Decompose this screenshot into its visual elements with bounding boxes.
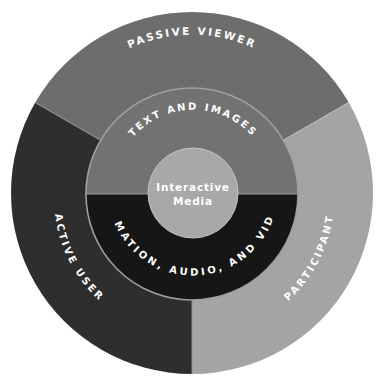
center-label-line2: Media [173,195,213,207]
center-label-line1: Interactive [156,181,229,193]
interactive-media-diagram: PASSIVE VIEWER TEXT AND IMAGES ANIMATION… [0,0,379,388]
center-circle [148,148,238,238]
